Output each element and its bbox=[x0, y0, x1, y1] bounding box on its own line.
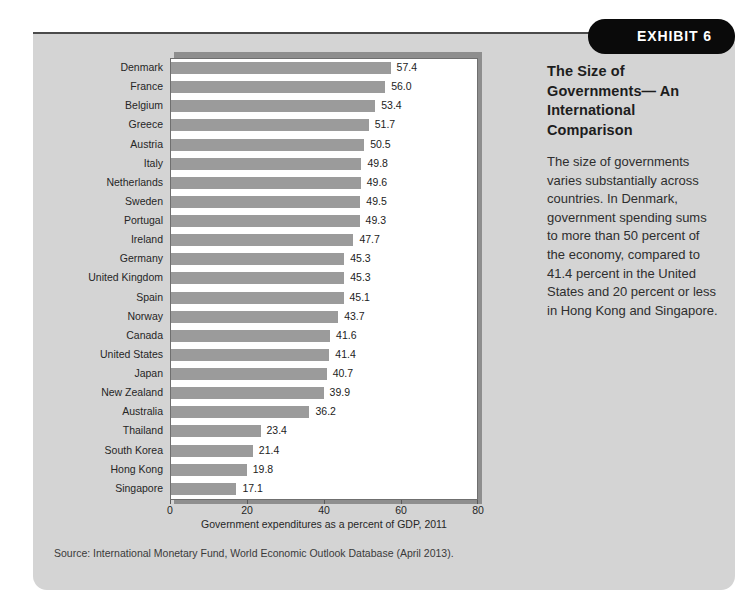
bar-value-label: 45.3 bbox=[350, 269, 370, 286]
bar-value-label: 49.6 bbox=[367, 174, 387, 191]
bar bbox=[171, 464, 247, 476]
bar bbox=[171, 139, 364, 151]
bar bbox=[171, 349, 329, 361]
bar-value-label: 53.4 bbox=[381, 97, 401, 114]
bar-value-label: 41.6 bbox=[336, 327, 356, 344]
x-axis-tick-label: 60 bbox=[395, 504, 407, 516]
bar bbox=[171, 292, 344, 304]
category-label: Australia bbox=[122, 403, 163, 420]
bar bbox=[171, 215, 360, 227]
bar-row: Ireland47.7 bbox=[171, 231, 477, 249]
category-label: New Zealand bbox=[101, 384, 163, 401]
bar bbox=[171, 119, 369, 131]
bar-row: Italy49.8 bbox=[171, 155, 477, 173]
bar-value-label: 49.8 bbox=[367, 155, 387, 172]
category-label: Greece bbox=[129, 116, 163, 133]
bar-value-label: 47.7 bbox=[359, 231, 379, 248]
category-label: Germany bbox=[120, 250, 163, 267]
category-label: Denmark bbox=[120, 59, 163, 76]
bar-value-label: 41.4 bbox=[335, 346, 355, 363]
bar-row: Australia36.2 bbox=[171, 403, 477, 421]
exhibit-number-label: EXHIBIT 6 bbox=[637, 28, 712, 44]
bar-series: Denmark57.4France56.0Belgium53.4Greece51… bbox=[171, 59, 477, 499]
category-label: Italy bbox=[144, 155, 163, 172]
exhibit-sidebar: The Size of Governments— An Internationa… bbox=[547, 62, 719, 320]
category-label: Belgium bbox=[125, 97, 163, 114]
category-label: United States bbox=[100, 346, 163, 363]
bar-value-label: 40.7 bbox=[333, 365, 353, 382]
bar-row: South Korea21.4 bbox=[171, 442, 477, 460]
bar-row: Greece51.7 bbox=[171, 116, 477, 134]
category-label: Ireland bbox=[131, 231, 163, 248]
bar-row: Singapore17.1 bbox=[171, 480, 477, 498]
bar bbox=[171, 272, 344, 284]
bar-value-label: 39.9 bbox=[330, 384, 350, 401]
bar-value-label: 21.4 bbox=[259, 442, 279, 459]
x-axis-tick-label: 40 bbox=[318, 504, 330, 516]
bar bbox=[171, 234, 353, 246]
bar bbox=[171, 311, 338, 323]
x-axis-title: Government expenditures as a percent of … bbox=[170, 518, 478, 530]
x-axis-tick-label: 80 bbox=[472, 504, 484, 516]
bar bbox=[171, 483, 236, 495]
exhibit-number-badge: EXHIBIT 6 bbox=[588, 19, 735, 54]
bar-value-label: 36.2 bbox=[315, 403, 335, 420]
bar-row: Portugal49.3 bbox=[171, 212, 477, 230]
bar bbox=[171, 196, 360, 208]
bar bbox=[171, 62, 391, 74]
category-label: South Korea bbox=[105, 442, 163, 459]
category-label: Norway bbox=[127, 308, 163, 325]
bar-row: France56.0 bbox=[171, 78, 477, 96]
bar bbox=[171, 158, 361, 170]
bar-row: Thailand23.4 bbox=[171, 422, 477, 440]
bar-row: United Kingdom45.3 bbox=[171, 269, 477, 287]
category-label: Hong Kong bbox=[110, 461, 163, 478]
bar-row: Norway43.7 bbox=[171, 308, 477, 326]
bar-value-label: 45.1 bbox=[350, 289, 370, 306]
bar bbox=[171, 425, 261, 437]
bar-value-label: 51.7 bbox=[375, 116, 395, 133]
bar-value-label: 23.4 bbox=[267, 422, 287, 439]
bar-row: Germany45.3 bbox=[171, 250, 477, 268]
source-note: Source: International Monetary Fund, Wor… bbox=[54, 547, 454, 559]
bar-row: New Zealand39.9 bbox=[171, 384, 477, 402]
exhibit-page: EXHIBIT 6 The Size of Governments— An In… bbox=[0, 0, 735, 614]
category-label: Sweden bbox=[125, 193, 163, 210]
category-label: Thailand bbox=[123, 422, 163, 439]
bar bbox=[171, 330, 330, 342]
bar-row: Austria50.5 bbox=[171, 136, 477, 154]
bar-value-label: 50.5 bbox=[370, 136, 390, 153]
bar-value-label: 57.4 bbox=[397, 59, 417, 76]
category-label: Portugal bbox=[124, 212, 163, 229]
category-label: Spain bbox=[136, 289, 163, 306]
category-label: Austria bbox=[130, 136, 163, 153]
bar bbox=[171, 406, 309, 418]
bar bbox=[171, 368, 327, 380]
category-label: Canada bbox=[126, 327, 163, 344]
bar bbox=[171, 253, 344, 265]
bar-row: Sweden49.5 bbox=[171, 193, 477, 211]
bar-value-label: 45.3 bbox=[350, 250, 370, 267]
exhibit-title: The Size of Governments— An Internationa… bbox=[547, 62, 719, 140]
bar bbox=[171, 387, 324, 399]
bar-value-label: 49.5 bbox=[366, 193, 386, 210]
category-label: Singapore bbox=[115, 480, 163, 497]
exhibit-description: The size of governments varies substanti… bbox=[547, 153, 719, 320]
bar-row: Canada41.6 bbox=[171, 327, 477, 345]
bar-row: Denmark57.4 bbox=[171, 59, 477, 77]
x-axis-tick-label: 0 bbox=[167, 504, 173, 516]
bar bbox=[171, 100, 375, 112]
category-label: France bbox=[130, 78, 163, 95]
bar-row: Japan40.7 bbox=[171, 365, 477, 383]
bar-value-label: 17.1 bbox=[242, 480, 262, 497]
category-label: Japan bbox=[134, 365, 163, 382]
bar bbox=[171, 81, 385, 93]
category-label: United Kingdom bbox=[88, 269, 163, 286]
bar-value-label: 43.7 bbox=[344, 308, 364, 325]
x-axis: 020406080 bbox=[170, 500, 478, 516]
bar bbox=[171, 177, 361, 189]
bar bbox=[171, 445, 253, 457]
bar-row: Belgium53.4 bbox=[171, 97, 477, 115]
bar-row: Spain45.1 bbox=[171, 289, 477, 307]
x-axis-tick-label: 20 bbox=[241, 504, 253, 516]
